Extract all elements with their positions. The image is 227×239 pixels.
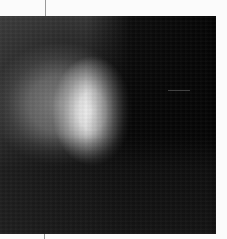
top-tick-mark [45,0,46,16]
faint-streak [168,90,190,91]
noise-texture [0,16,216,234]
bottom-tick-mark [44,234,45,239]
image-frame [0,0,227,239]
grayscale-image [0,16,216,234]
